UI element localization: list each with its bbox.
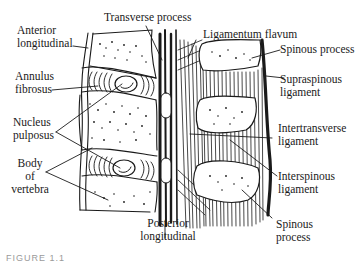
label-posterior-longitudinal: Posterior longitudinal [138,217,198,243]
label-supraspinous-line2: ligament [280,86,342,99]
bone-stipple [89,41,151,207]
nucleus-pulposus-upper-drawing [115,76,137,92]
posterior-longitudinal-ligament-drawing [160,30,177,226]
label-intertransverse-line2: ligament [278,135,346,148]
label-anterior-longitudinal-line2: longitudinal [17,37,73,50]
label-interspinous-line2: ligament [278,183,335,196]
label-supraspinous-line1: Supraspinous [280,73,342,86]
label-anterior-longitudinal: Anterior longitudinal [17,24,73,50]
label-spinous-process-bottom: Spinous process [276,218,313,244]
label-body-of-vertebra-line2: of [10,170,50,183]
label-intertransverse-line1: Intertransverse [278,122,346,135]
label-body-of-vertebra: Body of vertebra [10,157,50,196]
label-annulus-fibrosus-line1: Annulus [15,70,54,83]
figure-caption: FIGURE 1.1 [6,253,65,263]
label-spinous-process-bottom-line1: Spinous [276,218,313,231]
label-spinous-process-bottom-line2: process [276,231,313,244]
label-posterior-longitudinal-line1: Posterior [138,217,198,230]
spinous-process-top-drawing [199,40,261,71]
label-body-of-vertebra-line1: Body [10,157,50,170]
label-anterior-longitudinal-line1: Anterior [17,24,73,37]
label-interspinous-ligament: Interspinous ligament [278,170,335,196]
label-ligamentum-flavum: Ligamentum flavum [203,28,297,41]
label-annulus-fibrosus-line2: fibrosus [15,83,54,96]
label-supraspinous-ligament: Supraspinous ligament [280,73,342,99]
label-transverse-process: Transverse process [104,11,191,24]
vertebral-column-drawing [79,30,157,212]
spinous-process-middle-drawing [196,96,256,133]
label-annulus-fibrosus: Annulus fibrosus [15,70,54,96]
label-spinous-process-top: Spinous process [280,43,354,56]
label-body-of-vertebra-line3: vertebra [10,183,50,196]
foramen-lower [161,158,171,183]
spinous-process-bottom-drawing [194,161,260,203]
label-nucleus-pulposus-line2: pulposus [13,129,54,142]
label-posterior-longitudinal-line2: longitudinal [138,230,198,243]
supraspinous-ligament-drawing [262,40,271,215]
nucleus-pulposus-lower-drawing [113,160,135,176]
anterior-longitudinal-ligament-drawing [80,33,93,210]
foramen-upper [161,93,171,118]
label-intertransverse-ligament: Intertransverse ligament [278,122,346,148]
label-nucleus-pulposus: Nucleus pulposus [13,116,54,142]
label-interspinous-line1: Interspinous [278,170,335,183]
label-nucleus-pulposus-line1: Nucleus [13,116,54,129]
